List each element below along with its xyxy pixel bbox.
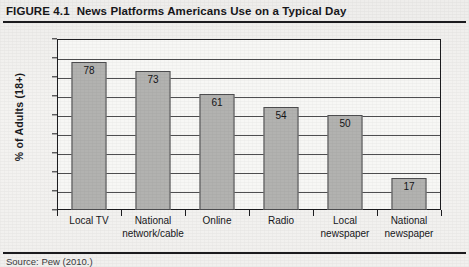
- bar[interactable]: 54: [264, 107, 299, 210]
- bar-value-label: 78: [83, 66, 94, 209]
- bar-slot: 78: [57, 39, 121, 210]
- bars-layer: 787361545017: [57, 39, 441, 210]
- bar-value-label: 73: [147, 75, 158, 209]
- bar-slot: 54: [249, 39, 313, 210]
- bar-slot: 50: [313, 39, 377, 210]
- bar-slot: 61: [185, 39, 249, 210]
- bar-value-label: 61: [211, 98, 222, 209]
- bar[interactable]: 61: [200, 94, 235, 210]
- bottom-divider: [3, 252, 466, 254]
- title-divider: [3, 21, 466, 23]
- bar[interactable]: 73: [136, 71, 171, 210]
- bar-value-label: 50: [339, 119, 350, 209]
- figure-title-block: FIGURE 4.1 News Platforms Americans Use …: [6, 2, 465, 20]
- bar-value-label: 54: [275, 111, 286, 209]
- y-axis-title: % of Adults (18+): [13, 42, 25, 192]
- bar[interactable]: 50: [328, 115, 363, 210]
- chart-canvas: % of Adults (18+) 0102030405060708090 78…: [0, 25, 469, 247]
- figure-number-label: FIGURE 4.1: [6, 5, 70, 17]
- bar[interactable]: 17: [392, 178, 427, 210]
- x-axis-labels: Local TVNationalnetwork/cableOnlineRadio…: [57, 215, 441, 249]
- bar-slot: 17: [377, 39, 441, 210]
- figure-container: FIGURE 4.1 News Platforms Americans Use …: [0, 0, 469, 267]
- source-note: Source: Pew (2010.): [6, 256, 93, 267]
- page-title: News Platforms Americans Use on a Typica…: [77, 5, 347, 17]
- x-axis-category-label: Nationalnewspaper: [369, 215, 449, 240]
- bar-value-label: 17: [403, 182, 414, 209]
- bar[interactable]: 78: [72, 62, 107, 210]
- bar-slot: 73: [121, 39, 185, 210]
